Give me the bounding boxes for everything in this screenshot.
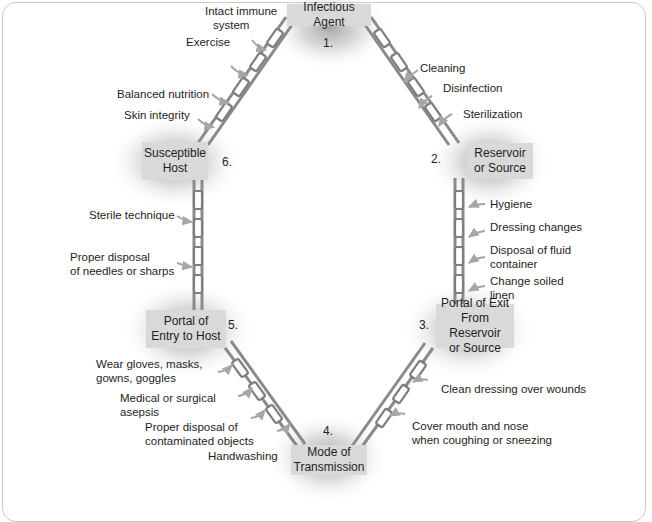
- node-label-line: Portal of: [164, 314, 209, 329]
- label-line: system: [205, 18, 277, 32]
- label-line: Change soiled: [490, 274, 564, 288]
- label-line: when coughing or sneezing: [412, 433, 552, 447]
- intervention-change-soiled-linen: Change soiled linen: [490, 274, 564, 302]
- intervention-cleaning: Cleaning: [420, 61, 465, 75]
- chain-link-segments: [194, 28, 463, 427]
- node-infectious-agent: Infectious Agent: [287, 4, 371, 26]
- label-line: of needles or sharps: [70, 264, 174, 278]
- chain-links: [194, 17, 463, 448]
- intervention-handwashing: Handwashing: [208, 449, 278, 463]
- intervention-sterile-technique: Sterile technique: [89, 208, 175, 222]
- node-label-line: From Reservoir: [436, 311, 514, 341]
- intervention-dressing-changes: Dressing changes: [490, 220, 582, 234]
- label-line: Wear gloves, masks,: [96, 357, 203, 371]
- node-label-line: Transmission: [294, 460, 365, 475]
- label-line: gowns, goggles: [96, 371, 203, 385]
- node-number-5: 5.: [228, 318, 238, 332]
- node-label: Infectious Agent: [287, 0, 371, 30]
- intervention-disinfection: Disinfection: [443, 81, 502, 95]
- intervention-sterilization: Sterilization: [463, 107, 522, 121]
- node-label-line: Mode of: [307, 445, 350, 460]
- intervention-medical-surgical-asepsis: Medical or surgical asepsis: [120, 391, 216, 419]
- label-line: Disposal of fluid: [490, 243, 571, 257]
- node-label-line: or Source: [474, 161, 526, 176]
- node-reservoir: Reservoir or Source: [467, 143, 533, 179]
- node-number-3: 3.: [419, 318, 429, 332]
- label-line: Proper disposal of: [145, 420, 254, 434]
- node-portal-of-entry: Portal of Entry to Host: [146, 310, 226, 348]
- intervention-clean-dressing-over-wounds: Clean dressing over wounds: [441, 382, 586, 396]
- intervention-cover-mouth-and-nose: Cover mouth and nose when coughing or sn…: [412, 419, 552, 447]
- node-portal-of-exit: Portal of Exit From Reservoir or Source: [436, 304, 514, 348]
- intervention-proper-disposal-of-needles: Proper disposal of needles or sharps: [70, 250, 174, 278]
- node-label-line: or Source: [449, 341, 501, 356]
- node-label-line: Host: [163, 161, 188, 176]
- node-label-line: Reservoir: [474, 146, 525, 161]
- intervention-intact-immune-system: Intact immune system: [205, 4, 277, 32]
- label-line: Medical or surgical: [120, 391, 216, 405]
- node-mode-of-transmission: Mode of Transmission: [291, 445, 367, 475]
- intervention-exercise: Exercise: [186, 35, 230, 49]
- label-line: container: [490, 257, 571, 271]
- label-line: linen: [490, 288, 564, 302]
- node-number-1: 1.: [323, 36, 333, 50]
- node-label-line: Susceptible: [144, 146, 206, 161]
- label-line: asepsis: [120, 405, 216, 419]
- intervention-proper-disposal-of-contaminated-objects: Proper disposal of contaminated objects: [145, 420, 254, 448]
- node-susceptible-host: Susceptible Host: [142, 142, 208, 180]
- label-line: Proper disposal: [70, 250, 174, 264]
- node-number-4: 4.: [323, 424, 333, 438]
- node-label-line: Entry to Host: [151, 329, 220, 344]
- intervention-hygiene: Hygiene: [490, 197, 532, 211]
- intervention-skin-integrity: Skin integrity: [124, 108, 190, 122]
- intervention-balanced-nutrition: Balanced nutrition: [117, 87, 209, 101]
- label-line: contaminated objects: [145, 434, 254, 448]
- label-line: Intact immune: [205, 4, 277, 18]
- node-number-6: 6.: [222, 155, 232, 169]
- intervention-wear-gloves-masks: Wear gloves, masks, gowns, goggles: [96, 357, 203, 385]
- label-line: Cover mouth and nose: [412, 419, 552, 433]
- intervention-disposal-of-fluid-container: Disposal of fluid container: [490, 243, 571, 271]
- node-number-2: 2.: [431, 152, 441, 166]
